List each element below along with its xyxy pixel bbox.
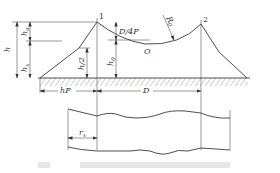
arc-center-label: O bbox=[144, 47, 151, 56]
ground bbox=[38, 78, 250, 86]
radius-label: R0 bbox=[163, 14, 176, 28]
plan-upper-boundary bbox=[68, 109, 230, 118]
figure-caption-placeholder bbox=[80, 162, 230, 168]
peak-2-label: 2 bbox=[203, 15, 208, 24]
left-protection-slope bbox=[40, 22, 97, 78]
protection-arc bbox=[97, 22, 201, 44]
label-ha: ha bbox=[20, 28, 30, 36]
label-hp: hP bbox=[60, 86, 71, 95]
protection-zone-diagram: R0 1 2 O h ha hx h/2 D/4P h0 hP D rx bbox=[0, 0, 280, 173]
label-d4p: D/4P bbox=[118, 27, 139, 36]
label-h0: h0 bbox=[106, 57, 116, 66]
plan-lower-boundary bbox=[68, 147, 230, 154]
plan-view: rx bbox=[68, 109, 230, 154]
label-h: h bbox=[3, 47, 12, 52]
label-hx: hx bbox=[20, 63, 30, 72]
label-D: D bbox=[142, 86, 150, 95]
label-h-half: h/2 bbox=[77, 57, 86, 70]
figure-caption-placeholder bbox=[38, 162, 50, 168]
label-rx: rx bbox=[79, 128, 87, 138]
peak-1-label: 1 bbox=[99, 12, 104, 21]
right-protection-slope bbox=[201, 24, 247, 78]
